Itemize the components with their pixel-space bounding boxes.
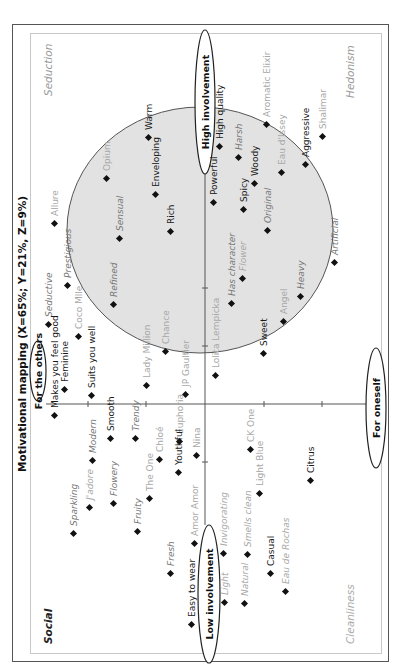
point-label: Heavy — [296, 261, 306, 289]
diamond-marker-icon — [303, 161, 309, 167]
point-label: Artificial — [330, 218, 340, 255]
diamond-marker-icon — [242, 600, 248, 606]
diamond-marker-icon — [268, 570, 274, 576]
diamond-marker-icon — [281, 318, 287, 324]
point-label: Sparkling — [69, 484, 79, 526]
point-label: Chloé — [155, 426, 165, 452]
diamond-marker-icon — [117, 235, 123, 241]
diamond-marker-icon — [240, 275, 246, 281]
diamond-marker-icon — [320, 133, 326, 139]
diamond-marker-icon — [89, 392, 95, 398]
point-label: The One — [145, 453, 155, 491]
point-label: Has character — [227, 233, 237, 296]
point-label: Easy to wear — [187, 559, 197, 617]
diamond-marker-icon — [192, 540, 198, 546]
diamond-marker-icon — [279, 169, 285, 175]
point-label: Harsh — [234, 124, 244, 150]
point-label: Lady Million — [142, 325, 152, 378]
point-label: Suits you well — [87, 326, 97, 388]
for-the-others-label: For the others — [33, 333, 44, 409]
point-label: Smooth — [106, 396, 116, 431]
point-label: Angel — [279, 288, 289, 314]
diamond-marker-icon — [217, 143, 223, 149]
point-label: Rich — [166, 205, 176, 224]
point-label: Spicy — [239, 178, 249, 202]
diamond-marker-icon — [90, 457, 96, 463]
point-label: Modern — [88, 419, 98, 453]
point-label: Aromatic Elixir — [262, 51, 272, 117]
diamond-marker-icon — [62, 386, 68, 392]
diamond-marker-icon — [264, 121, 270, 127]
point-label: Chance — [161, 310, 171, 344]
point-label: CK One — [246, 409, 256, 442]
diamond-marker-icon — [144, 382, 150, 388]
point-label: Casual — [266, 536, 276, 566]
point-label: Natural — [240, 563, 250, 596]
diamond-marker-icon — [248, 446, 254, 452]
diamond-marker-icon — [52, 220, 58, 226]
point-label: Feminine — [60, 341, 70, 382]
point-label: Fruity — [133, 498, 143, 524]
diamond-marker-icon — [168, 228, 174, 234]
high-involvement-label: High involvement — [200, 55, 211, 149]
point-label: Enveloping — [151, 137, 161, 187]
point-label: Youthful — [174, 429, 184, 465]
diamond-marker-icon — [153, 191, 159, 197]
point-label: Citrus — [306, 447, 316, 473]
point-label: Aggressive — [301, 108, 311, 157]
point-label: Seductive — [44, 272, 54, 317]
diamond-marker-icon — [229, 300, 235, 306]
diamond-marker-icon — [194, 452, 200, 458]
diamond-marker-icon — [104, 175, 110, 181]
point-label: Light Blue — [255, 441, 265, 486]
point-label: J'adore — [85, 469, 95, 500]
rotated-chart-canvas: Motivational mapping (X=65%; Y=21%, Z=9%… — [0, 0, 402, 668]
point-label: Warm — [144, 104, 154, 130]
diamond-marker-icon — [108, 435, 114, 441]
point-label: Lolita Lempicka — [211, 298, 221, 368]
diamond-marker-icon — [221, 550, 227, 556]
quadrant-cleanliness: Cleanliness — [344, 584, 356, 644]
point-label: Sweet — [259, 318, 269, 346]
diamond-marker-icon — [332, 259, 338, 265]
diamond-marker-icon — [308, 477, 314, 483]
point-label: Nina — [192, 428, 202, 448]
diamond-marker-icon — [168, 570, 174, 576]
point-label: High quality — [215, 85, 225, 139]
point-label: Smells clean — [243, 490, 253, 547]
quadrant-seduction: Seduction — [42, 44, 54, 96]
diamond-marker-icon — [189, 621, 195, 627]
point-label: Trendy — [131, 400, 141, 431]
diamond-marker-icon — [222, 599, 228, 605]
low-involvement-label: Low involvement — [204, 549, 215, 640]
point-label: Allure — [50, 190, 60, 216]
diamond-marker-icon — [213, 372, 219, 378]
diamond-marker-icon — [111, 301, 117, 307]
diamond-marker-icon — [236, 154, 242, 160]
diamond-marker-icon — [147, 495, 153, 501]
point-label: Eau de Rochas — [281, 518, 291, 585]
diamond-marker-icon — [298, 293, 304, 299]
diamond-marker-icon — [261, 350, 267, 356]
point-label: Sensual — [115, 196, 125, 231]
point-label: JP Gaultier — [181, 340, 191, 387]
point-label: Flowery — [109, 461, 119, 496]
point-label: Opium — [102, 141, 112, 171]
diamond-marker-icon — [245, 551, 251, 557]
diamond-marker-icon — [135, 528, 141, 534]
point-label: Coco Mlle — [74, 286, 84, 329]
point-label: Flower — [238, 241, 248, 271]
diamond-marker-icon — [257, 490, 263, 496]
quadrant-hedonism: Hedonism — [344, 45, 356, 98]
diamond-marker-icon — [87, 504, 93, 510]
diamond-marker-icon — [283, 588, 289, 594]
diamond-marker-icon — [52, 412, 58, 418]
point-label: Refined — [109, 262, 119, 297]
diamond-marker-icon — [241, 206, 247, 212]
diamond-marker-icon — [176, 469, 182, 475]
point-label: Powerful — [209, 156, 219, 195]
quadrant-social: Social — [42, 609, 54, 644]
point-label: Invigorating — [219, 492, 229, 546]
point-label: Amor Amor — [190, 485, 200, 536]
point-label: Woody — [250, 146, 260, 176]
